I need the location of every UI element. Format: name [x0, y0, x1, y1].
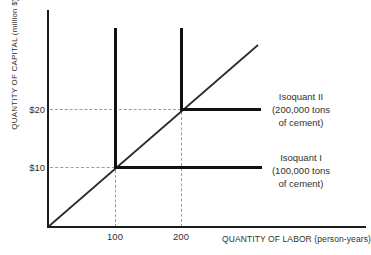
- y-tick-label-10: $10: [17, 162, 45, 173]
- isoquant-1-vertical-segment: [114, 28, 117, 169]
- isoquant-1-annotation-line2: (100,000 tons: [255, 164, 347, 177]
- x-axis-line: [47, 226, 366, 228]
- isoquant-figure: QUANTITY OF CAPITAL (million $) QUANTITY…: [0, 0, 371, 255]
- isoquant-2-annotation-line2: (200,000 tons: [255, 103, 347, 116]
- x-tick-label-200: 200: [166, 231, 196, 242]
- y-tick-label-20: $20: [17, 104, 45, 115]
- isoquant-1-annotation-line3: of cement): [255, 177, 347, 190]
- isoquant-1-annotation: Isoquant I (100,000 tons of cement): [255, 151, 347, 190]
- isoquant-2-annotation-line1: Isoquant II: [255, 90, 347, 103]
- x-axis-title: QUANTITY OF LABOR (person-years): [222, 234, 371, 244]
- isoquant-2-horizontal-segment: [180, 108, 261, 111]
- x-tick-label-100: 100: [100, 231, 130, 242]
- y-axis-line: [47, 10, 49, 228]
- isoquant-1-annotation-line1: Isoquant I: [255, 151, 347, 164]
- isoquant-2-vertical-segment: [180, 28, 183, 111]
- isoquant-2-annotation-line3: of cement): [255, 116, 347, 129]
- isoquant-1-horizontal-segment: [114, 166, 262, 169]
- isoquant-2-annotation: Isoquant II (200,000 tons of cement): [255, 90, 347, 129]
